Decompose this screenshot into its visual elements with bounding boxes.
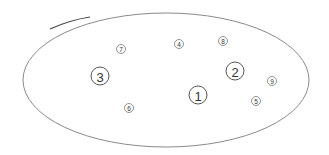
boundary-ellipse xyxy=(23,13,309,147)
marker-6: 6 xyxy=(125,104,134,113)
marker-1-label: 1 xyxy=(194,89,201,104)
marker-7-label: 7 xyxy=(119,46,123,53)
marker-9-label: 9 xyxy=(270,78,274,85)
marker-5: 5 xyxy=(252,97,261,106)
marker-9: 9 xyxy=(268,77,277,86)
boundary-highlight-stroke xyxy=(50,17,90,29)
marker-3-label: 3 xyxy=(96,70,103,85)
marker-4: 4 xyxy=(175,40,184,49)
marker-1: 1 xyxy=(189,86,207,104)
marker-3: 3 xyxy=(91,67,109,85)
marker-7: 7 xyxy=(117,45,126,54)
marker-8: 8 xyxy=(219,37,228,46)
marker-5-label: 5 xyxy=(254,98,258,105)
marker-6-label: 6 xyxy=(127,105,131,112)
marker-2: 2 xyxy=(226,62,244,80)
diagram-canvas: 1 2 3 4 5 6 7 8 9 xyxy=(0,0,329,155)
marker-4-label: 4 xyxy=(177,41,181,48)
marker-2-label: 2 xyxy=(231,65,238,80)
marker-8-label: 8 xyxy=(221,38,225,45)
